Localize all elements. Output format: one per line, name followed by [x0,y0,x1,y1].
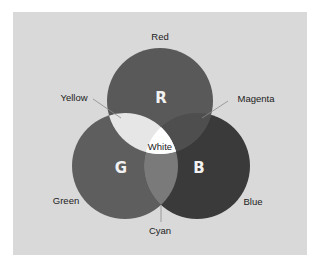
red-letter: R [155,89,167,107]
blue-label: Blue [243,196,262,207]
blue-letter: B [193,159,204,177]
cyan-label: Cyan [149,225,171,236]
green-letter: G [115,159,127,177]
yellow-label: Yellow [60,92,87,103]
red-label: Red [151,31,168,42]
magenta-label: Magenta [238,93,275,104]
green-label: Green [53,195,79,206]
white-label: White [148,141,172,152]
